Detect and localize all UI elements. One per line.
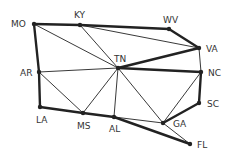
node-nc <box>199 70 203 74</box>
node-ar <box>37 70 41 74</box>
edge-la-ms <box>40 107 83 113</box>
edge-mo-ar <box>34 24 39 72</box>
node-al <box>112 115 116 119</box>
node-ms <box>81 111 85 115</box>
edge-tn-al <box>114 68 118 117</box>
node-label-nc: NC <box>208 68 221 78</box>
edge-ms-al <box>83 113 114 117</box>
edge-mo-ky <box>34 24 80 25</box>
node-label-wv: WV <box>163 15 178 25</box>
node-label-ms: MS <box>77 121 90 131</box>
node-la <box>38 105 42 109</box>
edge-nc-ga <box>163 72 201 123</box>
node-label-sc: SC <box>207 99 219 109</box>
node-label-la: LA <box>36 115 47 125</box>
node-label-mo: MO <box>11 19 26 29</box>
graph-diagram: MOKYWVVATNNCARSCLAMSALGAFL <box>0 0 234 159</box>
node-ga <box>161 121 165 125</box>
edge-tn-va <box>118 48 199 68</box>
edge-tn-ms <box>83 68 118 113</box>
node-label-al: AL <box>109 124 120 134</box>
edge-ky-wv <box>80 25 169 29</box>
node-fl <box>188 142 192 146</box>
node-wv <box>167 27 171 31</box>
node-ky <box>78 23 82 27</box>
node-tn <box>116 66 120 70</box>
node-label-va: VA <box>206 44 218 54</box>
edge-va-nc <box>199 48 201 72</box>
edge-nc-sc <box>199 72 201 103</box>
node-label-ar: AR <box>20 68 32 78</box>
edge-mo-tn <box>34 24 118 68</box>
node-label-ky: KY <box>74 10 85 20</box>
edge-tn-ga <box>118 68 163 123</box>
node-label-fl: FL <box>197 140 207 150</box>
node-va <box>197 46 201 50</box>
edge-tn-nc <box>118 68 201 72</box>
node-label-ga: GA <box>173 119 186 129</box>
edge-ar-tn <box>39 68 118 72</box>
node-label-tn: TN <box>114 54 126 64</box>
node-mo <box>32 22 36 26</box>
graph-edges <box>0 0 234 159</box>
edge-ar-la <box>39 72 40 107</box>
node-sc <box>197 101 201 105</box>
